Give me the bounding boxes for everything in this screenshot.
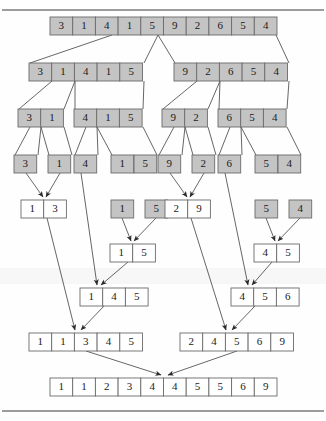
split-q1-to-s2 xyxy=(41,127,49,155)
array-s2: 1 xyxy=(48,155,71,173)
arrow-s2-to-merged13 xyxy=(46,173,60,197)
array-cell-value: 5 xyxy=(154,202,160,214)
split-q2-to-s45 xyxy=(97,127,112,155)
array-cell-value: 4 xyxy=(273,65,279,77)
split-q1-to-s2-end xyxy=(64,127,72,155)
array-cell-value: 9 xyxy=(279,335,285,347)
array-cell-value: 1 xyxy=(38,335,44,347)
level-5-second-merges: 1545 xyxy=(110,244,299,262)
array-s7: 2 xyxy=(192,155,215,173)
array-cell-value: 5 xyxy=(143,157,149,169)
arrow-lefthalf-to-final xyxy=(86,351,161,375)
array-cell-value: 3 xyxy=(27,111,33,123)
array-cell-value: 5 xyxy=(149,19,155,31)
array-s6: 9 xyxy=(158,155,181,173)
array-cell-value: 3 xyxy=(52,202,58,214)
level-2-split-quarters: 3141592654 xyxy=(18,109,286,127)
array-s4: 1 xyxy=(111,155,134,173)
split-rh-to-q3-end xyxy=(208,81,220,109)
array-cell-value: 2 xyxy=(189,335,195,347)
split-q1-to-s1-end xyxy=(38,127,41,155)
arrow-merged29-to-righthalf xyxy=(191,218,226,330)
array-cell-value: 1 xyxy=(127,19,133,31)
array-cell-value: 4 xyxy=(211,335,217,347)
array-cell-value: 1 xyxy=(105,111,111,123)
array-cell-value: 1 xyxy=(60,65,66,77)
array-cell-value: 5 xyxy=(264,202,270,214)
split-lines-layer xyxy=(15,35,301,155)
array-s9: 5 xyxy=(255,155,278,173)
merge-sort-diagram-svg: 3141592654314159265431415926543141592654… xyxy=(0,0,326,421)
split-q4-to-s8 xyxy=(219,127,230,155)
array-cell-value: 1 xyxy=(120,157,126,169)
array-cell-value: 4 xyxy=(263,19,269,31)
array-cell-value: 5 xyxy=(240,19,246,31)
array-single-1: 1 xyxy=(111,200,134,218)
array-merged-1-4-5: 145 xyxy=(80,288,148,306)
array-cell-value: 3 xyxy=(127,380,133,392)
array-final-sorted: 1123445569 xyxy=(50,378,277,396)
array-s8: 6 xyxy=(218,155,241,173)
array-q4: 654 xyxy=(218,109,286,127)
array-q2: 415 xyxy=(74,109,142,127)
split-q3-to-s7 xyxy=(185,127,193,155)
array-cell-value: 1 xyxy=(57,157,63,169)
arrow-merged13-to-lefthalf xyxy=(47,218,75,330)
split-q2-to-s3-end xyxy=(97,127,98,155)
array-cell-value: 4 xyxy=(106,335,112,347)
array-cell-value: 6 xyxy=(227,157,233,169)
array-cell-value: 9 xyxy=(167,157,173,169)
array-cell-value: 4 xyxy=(83,157,89,169)
array-cell-value: 4 xyxy=(240,290,246,302)
array-cell-value: 1 xyxy=(60,335,66,347)
array-cell-value: 4 xyxy=(149,380,155,392)
array-cell-value: 2 xyxy=(195,19,201,31)
array-cell-value: 9 xyxy=(172,19,178,31)
arrow-4b-to-merged45 xyxy=(278,218,300,241)
array-cell-value: 4 xyxy=(172,380,178,392)
array-cell-value: 1 xyxy=(81,19,87,31)
array-s1: 3 xyxy=(14,155,37,173)
arrow-righthalf-to-final xyxy=(168,351,237,375)
array-cell-value: 4 xyxy=(298,202,304,214)
array-cell-value: 5 xyxy=(128,335,134,347)
array-s3: 4 xyxy=(74,155,97,173)
array-right-half: 92654 xyxy=(174,63,288,81)
array-cell-value: 3 xyxy=(23,157,29,169)
array-merged-right-half: 24569 xyxy=(180,333,294,351)
array-q3: 92 xyxy=(162,109,207,127)
arrow-s1-to-merged13 xyxy=(26,173,43,197)
array-merged-1-5: 15 xyxy=(110,244,155,262)
array-cell-value: 2 xyxy=(201,157,207,169)
level-7-half-merges: 1134524569 xyxy=(29,333,294,351)
level-4-first-merges: 13152954 xyxy=(21,200,312,218)
split-root-to-right-end xyxy=(276,35,289,63)
split-q3-to-s7-end xyxy=(208,127,216,155)
array-single-5b: 5 xyxy=(255,200,278,218)
split-root-to-left xyxy=(30,35,112,63)
array-cell-value: 6 xyxy=(227,111,233,123)
arrow-merged45-to-merged456 xyxy=(252,262,272,285)
array-merged-4-5: 45 xyxy=(254,244,299,262)
array-merged-1-3: 13 xyxy=(21,200,66,218)
array-cell-value: 4 xyxy=(83,65,89,77)
array-cell-value: 5 xyxy=(262,290,268,302)
array-merged-left-half: 11345 xyxy=(29,333,143,351)
array-cell-value: 6 xyxy=(218,19,224,31)
array-cell-value: 5 xyxy=(218,380,224,392)
array-root: 3141592654 xyxy=(50,17,277,35)
array-cell-value: 5 xyxy=(285,246,291,258)
arrow-merged145-to-lefthalf xyxy=(81,306,104,330)
split-root-to-right xyxy=(158,35,175,63)
split-q2-to-s3 xyxy=(75,127,86,155)
array-cell-value: 1 xyxy=(30,202,36,214)
arrow-s3-to-merged145 xyxy=(81,173,97,285)
split-rh-to-q4-end xyxy=(287,81,289,109)
array-cell-value: 2 xyxy=(104,380,110,392)
array-cell-value: 3 xyxy=(59,19,65,31)
array-cell-value: 9 xyxy=(171,111,177,123)
array-cell-value: 4 xyxy=(263,246,269,258)
array-cell-value: 6 xyxy=(285,290,291,302)
split-q4-to-s910 xyxy=(241,127,256,155)
split-root-to-left-end xyxy=(144,35,158,63)
